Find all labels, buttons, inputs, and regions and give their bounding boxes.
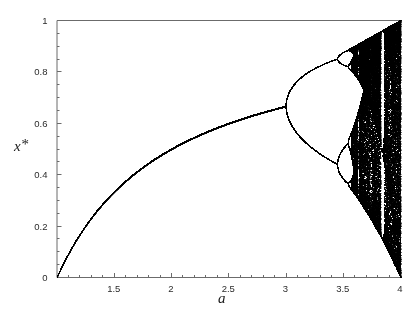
y-tick-label: 0.4 xyxy=(0,169,48,180)
y-axis-label-superscript: * xyxy=(21,136,29,152)
y-tick-label: 0.2 xyxy=(0,220,48,231)
x-tick-label: 1.5 xyxy=(107,283,120,294)
y-tick-label: 0.8 xyxy=(0,66,48,77)
y-tick-label: 1 xyxy=(0,15,48,26)
y-axis-label-base: x xyxy=(14,138,21,154)
x-tick-label: 2 xyxy=(168,283,173,294)
bifurcation-diagram-figure: x* a 1.522.533.54 00.20.40.60.81 xyxy=(0,0,416,316)
y-tick-label: 0 xyxy=(0,272,48,283)
x-tick-label: 3.5 xyxy=(336,283,349,294)
bifurcation-plot-canvas xyxy=(0,0,416,316)
x-tick-label: 4 xyxy=(397,283,402,294)
x-tick-label: 3 xyxy=(283,283,288,294)
x-tick-label: 2.5 xyxy=(222,283,235,294)
y-axis-label: x* xyxy=(14,136,28,155)
y-tick-label: 0.6 xyxy=(0,117,48,128)
